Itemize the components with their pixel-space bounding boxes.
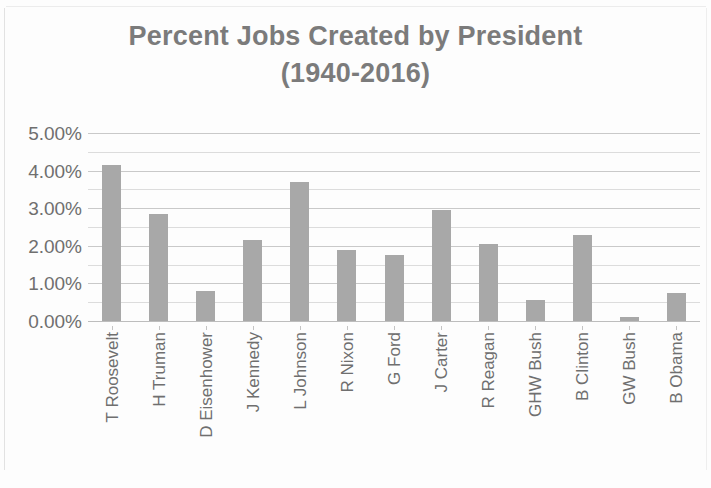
- bar: [385, 255, 404, 321]
- bar-slot: [88, 133, 135, 321]
- bar: [337, 250, 356, 321]
- bar-slot: [512, 133, 559, 321]
- x-axis-tick-label: G Ford: [386, 332, 403, 385]
- x-axis-tick-label: B Obama: [668, 332, 685, 404]
- y-axis-tick-label: 4.00%: [8, 162, 82, 181]
- y-axis-tick-label: 0.00%: [8, 312, 82, 331]
- bar: [290, 182, 309, 321]
- x-axis-tick-mark: [394, 326, 395, 330]
- bar-slot: [135, 133, 182, 321]
- x-axis-tick-label: J Carter: [433, 332, 450, 392]
- bar-slot: [606, 133, 653, 321]
- chart-title-line-2: (1940-2016): [0, 55, 711, 92]
- x-axis-tick-mark: [300, 326, 301, 330]
- chart-title-line-1: Percent Jobs Created by President: [0, 18, 711, 55]
- x-axis-tick-mark: [488, 326, 489, 330]
- x-axis-slot: D Eisenhower: [182, 326, 229, 476]
- bar: [526, 300, 545, 321]
- y-axis-tick-label: 3.00%: [8, 199, 82, 218]
- x-axis-slot: GW Bush: [606, 326, 653, 476]
- chart-figure: Percent Jobs Created by President (1940-…: [0, 0, 711, 488]
- x-axis-slot: R Nixon: [323, 326, 370, 476]
- x-axis-tick-label: GW Bush: [621, 332, 638, 405]
- bar-slot: [182, 133, 229, 321]
- x-axis-slot: R Reagan: [465, 326, 512, 476]
- bars-series: [88, 133, 700, 321]
- bar-slot: [276, 133, 323, 321]
- x-axis-slot: H Truman: [135, 326, 182, 476]
- x-axis-tick-mark: [535, 326, 536, 330]
- x-axis-tick-label: R Nixon: [338, 332, 355, 392]
- bar-slot: [465, 133, 512, 321]
- x-axis-slot: GHW Bush: [512, 326, 559, 476]
- y-axis-tick-label: 5.00%: [8, 124, 82, 143]
- x-axis-slot: J Carter: [418, 326, 465, 476]
- x-axis-tick-mark: [629, 326, 630, 330]
- x-axis-slot: L Johnson: [276, 326, 323, 476]
- x-axis-tick-mark: [206, 326, 207, 330]
- bar: [149, 214, 168, 321]
- x-axis-slot: G Ford: [370, 326, 417, 476]
- x-axis-slot: B Obama: [653, 326, 700, 476]
- y-axis: 0.00%1.00%2.00%3.00%4.00%5.00%: [8, 119, 82, 335]
- x-axis-tick-label: D Eisenhower: [197, 332, 214, 438]
- x-axis-tick-mark: [441, 326, 442, 330]
- bar: [196, 291, 215, 321]
- x-axis-tick-label: L Johnson: [291, 332, 308, 410]
- bar-slot: [229, 133, 276, 321]
- x-axis-tick-label: R Reagan: [480, 332, 497, 409]
- x-axis-tick-mark: [159, 326, 160, 330]
- x-axis: T RooseveltH TrumanD EisenhowerJ Kennedy…: [88, 326, 700, 476]
- x-axis-tick-mark: [582, 326, 583, 330]
- x-axis-slot: T Roosevelt: [88, 326, 135, 476]
- y-axis-tick-label: 2.00%: [8, 237, 82, 256]
- bar: [479, 244, 498, 321]
- bar-slot: [559, 133, 606, 321]
- x-axis-tick-label: H Truman: [150, 332, 167, 407]
- bar-slot: [418, 133, 465, 321]
- bar: [102, 165, 121, 321]
- bar-slot: [323, 133, 370, 321]
- x-axis-tick-label: T Roosevelt: [103, 332, 120, 422]
- x-axis-slot: B Clinton: [559, 326, 606, 476]
- x-axis-tick-label: GHW Bush: [527, 332, 544, 417]
- x-axis-tick-mark: [347, 326, 348, 330]
- y-axis-tick-label: 1.00%: [8, 274, 82, 293]
- bar: [573, 235, 592, 321]
- x-axis-line: [88, 321, 700, 322]
- x-axis-tick-mark: [676, 326, 677, 330]
- x-axis-tick-mark: [112, 326, 113, 330]
- plot-area: [88, 133, 700, 321]
- bar-slot: [370, 133, 417, 321]
- x-axis-tick-mark: [253, 326, 254, 330]
- chart-title: Percent Jobs Created by President (1940-…: [0, 18, 711, 92]
- bar-slot: [653, 133, 700, 321]
- page-edge-top: [6, 6, 706, 7]
- bar: [243, 240, 262, 321]
- bar: [432, 210, 451, 321]
- bar: [667, 293, 686, 321]
- x-axis-tick-label: B Clinton: [574, 332, 591, 401]
- x-axis-tick-label: J Kennedy: [244, 332, 261, 412]
- x-axis-slot: J Kennedy: [229, 326, 276, 476]
